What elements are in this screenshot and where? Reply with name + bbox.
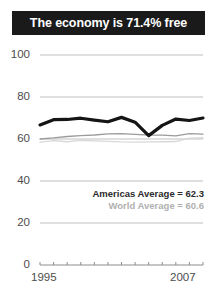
chart-svg <box>0 0 212 307</box>
series-line-americas-average <box>40 134 203 139</box>
series-line-world-average <box>40 138 203 142</box>
y-axis-label-100: 100 <box>2 49 30 61</box>
y-axis-label-60: 60 <box>2 133 30 145</box>
x-axis-label-end: 2007 <box>170 272 196 284</box>
legend-item-americas-average: Americas Average = 62.3 <box>92 188 204 200</box>
y-axis-label-0: 0 <box>2 259 30 271</box>
x-axis-label-start: 1995 <box>31 272 57 284</box>
data-series-group <box>40 117 203 142</box>
chart-legend: Americas Average = 62.3 World Average = … <box>92 188 204 212</box>
plot-area <box>0 0 212 307</box>
economic-freedom-chart-card: The economy is 71.4% free 100806040200 1… <box>0 0 212 307</box>
y-axis-label-40: 40 <box>2 175 30 187</box>
y-axis-label-20: 20 <box>2 217 30 229</box>
legend-item-world-average: World Average = 60.6 <box>92 200 204 212</box>
y-axis-label-80: 80 <box>2 91 30 103</box>
